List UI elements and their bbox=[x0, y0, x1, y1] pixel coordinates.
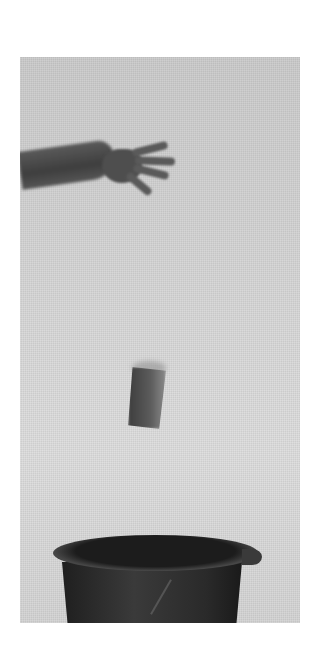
finger bbox=[132, 141, 169, 157]
falling-cup bbox=[128, 367, 166, 429]
bucket-spout bbox=[242, 549, 262, 565]
bucket-rim bbox=[53, 535, 258, 571]
finger bbox=[135, 156, 175, 165]
photograph bbox=[20, 57, 300, 623]
